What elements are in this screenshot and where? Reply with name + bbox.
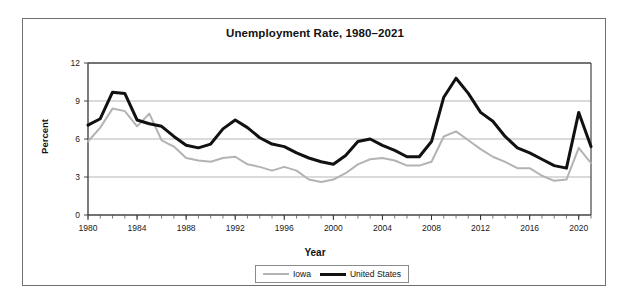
x-tick-label-2008: 2008 — [422, 223, 441, 233]
y-tick-labels: 036912 — [71, 58, 81, 220]
legend-label-iowa: Iowa — [293, 269, 311, 279]
x-tick-label-1984: 1984 — [128, 223, 147, 233]
x-tick-label-1996: 1996 — [275, 223, 294, 233]
x-tick-label-2016: 2016 — [520, 223, 539, 233]
x-tick-labels: 1980198419881992199620002004200820122016… — [79, 223, 589, 233]
x-tick-label-1992: 1992 — [226, 223, 245, 233]
y-tick-label-9: 9 — [75, 96, 80, 106]
legend-item-united-states: United States — [320, 269, 401, 279]
y-axis-title: Percent — [39, 107, 50, 167]
legend-swatch-united-states-icon — [320, 273, 346, 276]
legend-item-iowa: Iowa — [263, 269, 311, 279]
x-axis-title: Year — [23, 247, 607, 258]
chart-frame: Unemployment Rate, 1980–2021 036912 1980… — [22, 18, 606, 286]
y-tick-label-0: 0 — [75, 210, 80, 220]
x-tick-label-2000: 2000 — [324, 223, 343, 233]
y-tick-label-6: 6 — [75, 134, 80, 144]
data-series — [88, 78, 591, 182]
x-tick-label-1980: 1980 — [79, 223, 98, 233]
y-tick-label-3: 3 — [75, 172, 80, 182]
y-tick-label-12: 12 — [71, 58, 81, 68]
series-line-united-states — [88, 78, 591, 168]
chart-figure: Unemployment Rate, 1980–2021 036912 1980… — [0, 0, 627, 301]
x-tick-label-2012: 2012 — [471, 223, 490, 233]
legend-label-united-states: United States — [350, 269, 401, 279]
header-note — [4, 2, 74, 9]
axis-ticks — [84, 63, 591, 220]
x-tick-label-2020: 2020 — [569, 223, 588, 233]
chart-legend: Iowa United States — [255, 265, 409, 283]
legend-swatch-iowa-icon — [263, 273, 289, 275]
x-tick-label-1988: 1988 — [177, 223, 196, 233]
x-tick-label-2004: 2004 — [373, 223, 392, 233]
